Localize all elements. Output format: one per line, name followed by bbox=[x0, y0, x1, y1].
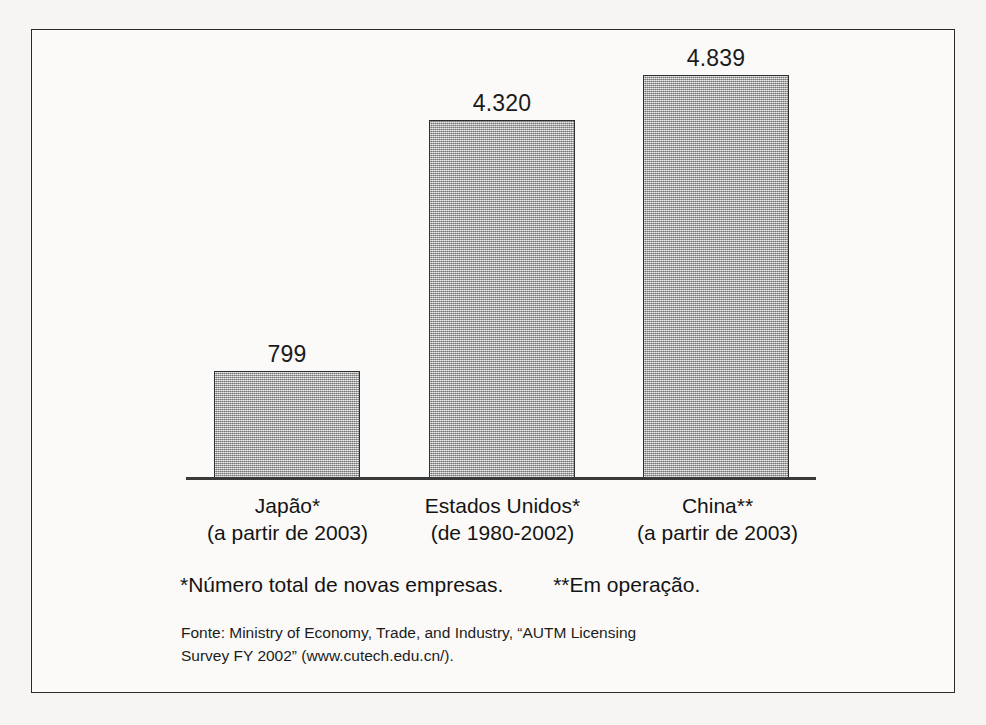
footnote-row: *Número total de novas empresas. **Em op… bbox=[180, 573, 700, 597]
category-label-japao-title: Japão* bbox=[255, 494, 320, 517]
bar-rect-japao[interactable] bbox=[214, 371, 360, 478]
category-label-estados-unidos: Estados Unidos* (de 1980-2002) bbox=[395, 492, 610, 546]
category-label-china: China** (a partir de 2003) bbox=[610, 492, 825, 546]
footnote-asterisk-double: **Em operação. bbox=[553, 573, 700, 596]
baseline-axis bbox=[186, 477, 816, 480]
category-label-china-subtitle: (a partir de 2003) bbox=[610, 519, 825, 546]
footnote-asterisk-single: *Número total de novas empresas. bbox=[180, 573, 503, 596]
bar-value-estados-unidos: 4.320 bbox=[473, 90, 532, 117]
bar-value-china: 4.839 bbox=[687, 45, 746, 72]
category-label-china-title: China** bbox=[682, 494, 753, 517]
category-axis-labels: Japão* (a partir de 2003) Estados Unidos… bbox=[32, 492, 956, 546]
source-note: Fonte: Ministry of Economy, Trade, and I… bbox=[181, 621, 636, 667]
category-label-japao-subtitle: (a partir de 2003) bbox=[180, 519, 395, 546]
bar-rect-china[interactable] bbox=[643, 75, 789, 478]
bar-value-japao: 799 bbox=[268, 341, 307, 368]
chart-figure-frame: 799 4.320 4.839 Japão* (a partir de 2003… bbox=[31, 29, 955, 693]
source-note-line-1: Fonte: Ministry of Economy, Trade, and I… bbox=[181, 621, 636, 644]
source-note-line-2: Survey FY 2002” (www.cutech.edu.cn/). bbox=[181, 644, 636, 667]
category-label-japao: Japão* (a partir de 2003) bbox=[180, 492, 395, 546]
category-label-estados-unidos-title: Estados Unidos* bbox=[425, 494, 580, 517]
bar-rect-estados-unidos[interactable] bbox=[429, 120, 575, 478]
category-label-estados-unidos-subtitle: (de 1980-2002) bbox=[395, 519, 610, 546]
